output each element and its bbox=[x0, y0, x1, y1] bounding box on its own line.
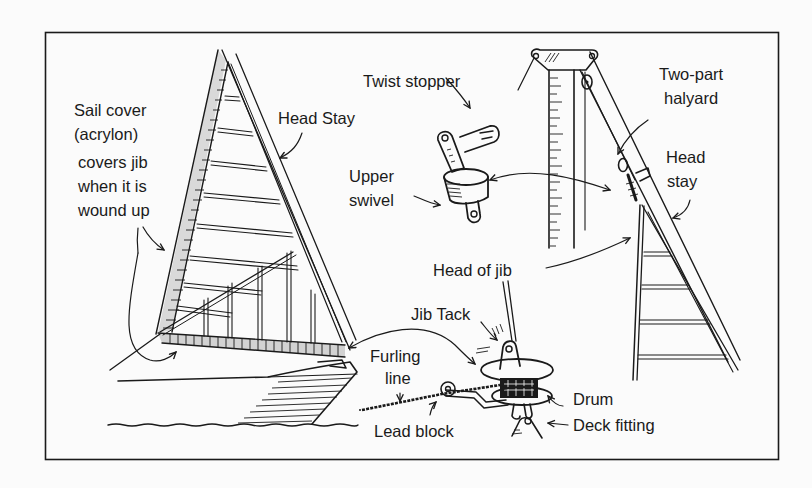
label-two-part-halyard-2: halyard bbox=[664, 89, 718, 107]
label-upper-swivel-1: Upper bbox=[349, 167, 394, 185]
label-drum: Drum bbox=[573, 390, 613, 408]
upper-swivel-illustration bbox=[414, 78, 610, 222]
label-twist-stopper: Twist stopper bbox=[363, 72, 461, 90]
label-deck-fitting: Deck fitting bbox=[573, 416, 655, 434]
label-head-stay-left: Head Stay bbox=[278, 109, 356, 127]
label-covers-jib-2: when it is bbox=[77, 177, 147, 195]
label-covers-jib-1: covers jib bbox=[78, 153, 148, 171]
label-head-of-jib: Head of jib bbox=[433, 261, 512, 279]
label-furling-line-1: Furling bbox=[370, 347, 420, 365]
label-head-stay-right-1: Head bbox=[666, 148, 705, 166]
label-lead-block: Lead block bbox=[374, 422, 455, 440]
label-covers-jib-3: wound up bbox=[77, 201, 150, 219]
label-head-stay-right-2: stay bbox=[667, 172, 698, 190]
label-sail-cover-2: (acrylon) bbox=[74, 125, 138, 143]
label-furling-line-2: line bbox=[385, 369, 411, 387]
label-sail-cover-1: Sail cover bbox=[74, 101, 147, 119]
furling-diagram: Sail cover (acrylon) covers jib when it … bbox=[0, 0, 812, 488]
label-jib-tack: Jib Tack bbox=[411, 305, 471, 323]
label-two-part-halyard-1: Two-part bbox=[659, 65, 724, 83]
labels: Sail cover (acrylon) covers jib when it … bbox=[74, 65, 724, 440]
label-upper-swivel-2: swivel bbox=[349, 191, 394, 209]
